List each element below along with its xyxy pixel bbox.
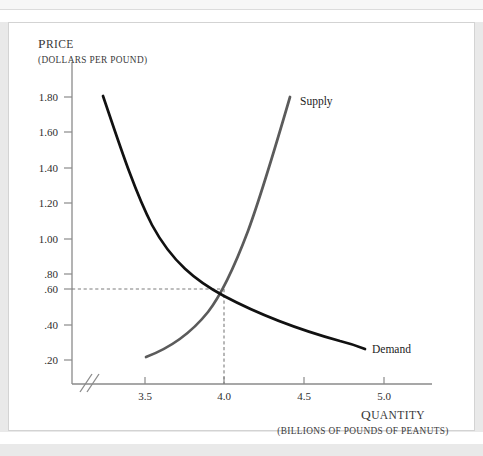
- y-tick-label-7: .40: [44, 319, 58, 331]
- y-tick-label-8: .20: [44, 354, 58, 366]
- y-axis-title-initial: P: [38, 36, 46, 51]
- x-axis-tick-labels: 3.5 4.0 4.5 5.0: [138, 390, 391, 402]
- y-tick-label-0: 1.80: [39, 91, 59, 103]
- demand-curve-label: Demand: [372, 343, 411, 355]
- x-tick-label-1: 4.0: [217, 390, 231, 402]
- y-axis-subtitle: (DOLLARS PER POUND): [38, 55, 147, 66]
- axis-break-icon: [80, 374, 99, 392]
- y-tick-label-4: 1.00: [39, 233, 59, 245]
- supply-curve-label: Supply: [300, 95, 333, 108]
- x-tick-label-0: 3.5: [138, 390, 152, 402]
- y-tick-label-2: 1.40: [39, 162, 59, 174]
- equilibrium-guides: [72, 289, 224, 384]
- y-tick-label-1: 1.60: [39, 126, 59, 138]
- x-tick-label-2: 4.5: [297, 390, 311, 402]
- y-axis-title: PRICE: [38, 36, 74, 51]
- y-axis-title-rest: RICE: [46, 38, 74, 50]
- x-axis-ticks: [145, 377, 384, 384]
- y-tick-label-6: .60: [44, 283, 58, 295]
- y-axis-title-group: PRICE (DOLLARS PER POUND): [38, 36, 147, 66]
- y-axis-ticks: [64, 97, 72, 360]
- x-axis-title-group: QUANTITY (BILLIONS OF POUNDS OF PEANUTS): [277, 407, 449, 437]
- demand-curve: [103, 96, 365, 349]
- y-tick-label-5: .80: [44, 268, 58, 280]
- y-axis-tick-labels: 1.80 1.60 1.40 1.20 1.00 .80 .60 .40 .20: [39, 91, 59, 366]
- x-tick-label-3: 5.0: [377, 390, 391, 402]
- figure-root: 1.80 1.60 1.40 1.20 1.00 .80 .60 .40 .20…: [0, 0, 483, 456]
- supply-demand-chart: 1.80 1.60 1.40 1.20 1.00 .80 .60 .40 .20…: [0, 0, 483, 456]
- x-axis-title-rest: UANTITY: [371, 409, 425, 421]
- x-axis-subtitle: (BILLIONS OF POUNDS OF PEANUTS): [277, 426, 449, 437]
- x-axis-title-initial: Q: [361, 407, 371, 422]
- x-axis-title: QUANTITY: [361, 407, 425, 422]
- y-tick-label-3: 1.20: [39, 197, 59, 209]
